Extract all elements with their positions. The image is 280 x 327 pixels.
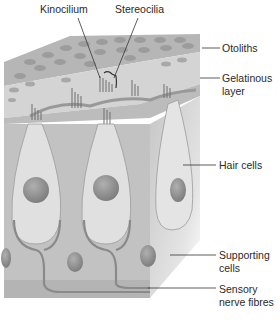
- label-kinocilium: Kinocilium: [40, 3, 88, 15]
- hair-cell-nucleus: [23, 177, 49, 203]
- label-otoliths: Otoliths: [222, 42, 258, 54]
- label-sensory-line1: Sensory: [219, 283, 258, 295]
- label-gelatinous-line2: layer: [222, 85, 245, 97]
- supporting-cell-nucleus: [67, 252, 83, 272]
- hair-cell-nucleus: [170, 178, 186, 202]
- label-gelatinous-line1: Gelatinous: [222, 72, 272, 84]
- diagram-figure: Kinocilium Stereocilia Otoliths Gelatino…: [0, 0, 280, 327]
- hair-cell-nucleus: [93, 175, 119, 201]
- label-stereocilia: Stereocilia: [115, 3, 164, 15]
- supporting-cell-nucleus: [140, 245, 156, 267]
- label-hair-cells: Hair cells: [219, 159, 262, 171]
- label-supporting-line1: Supporting: [219, 249, 270, 261]
- supporting-cell-nucleus: [1, 248, 11, 268]
- label-supporting-line2: cells: [219, 262, 240, 274]
- label-sensory-line2: nerve fibres: [219, 296, 274, 308]
